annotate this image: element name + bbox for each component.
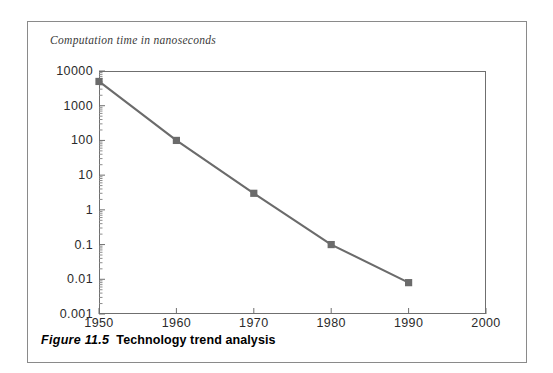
data-series-markers [95,78,412,286]
y-tick-label: 1000 [33,99,93,113]
y-tick-label: 10000 [33,64,93,78]
data-point-marker [250,190,257,197]
chart-axis-title: Computation time in nanoseconds [50,34,216,46]
y-tick-label: 10 [33,168,93,182]
axis-major-ticks [99,71,486,314]
x-tick-label: 1960 [146,316,206,330]
x-tick-label: 1950 [69,316,129,330]
y-tick-label: 0.1 [33,238,93,252]
data-point-marker [405,279,412,286]
y-tick-label: 100 [33,133,93,147]
figure-caption: Figure 11.5 Technology trend analysis [41,333,276,347]
chart-plot [99,71,486,314]
figure-number: Figure 11.5 [41,333,109,347]
x-tick-label: 1990 [379,316,439,330]
y-tick-label: 1 [33,203,93,217]
axis-minor-ticks [99,73,103,304]
data-point-marker [95,78,102,85]
x-tick-label: 1970 [224,316,284,330]
x-tick-label: 2000 [456,316,516,330]
data-point-marker [173,137,180,144]
data-point-marker [328,241,335,248]
data-series-line [99,81,409,282]
x-tick-label: 1980 [301,316,361,330]
figure-caption-text: Technology trend analysis [116,333,275,347]
figure-page: Computation time in nanoseconds 10000100… [0,0,553,373]
y-axis-tick-labels: 1000010001001010.10.010.001 [31,71,93,314]
y-tick-label: 0.01 [33,272,93,286]
